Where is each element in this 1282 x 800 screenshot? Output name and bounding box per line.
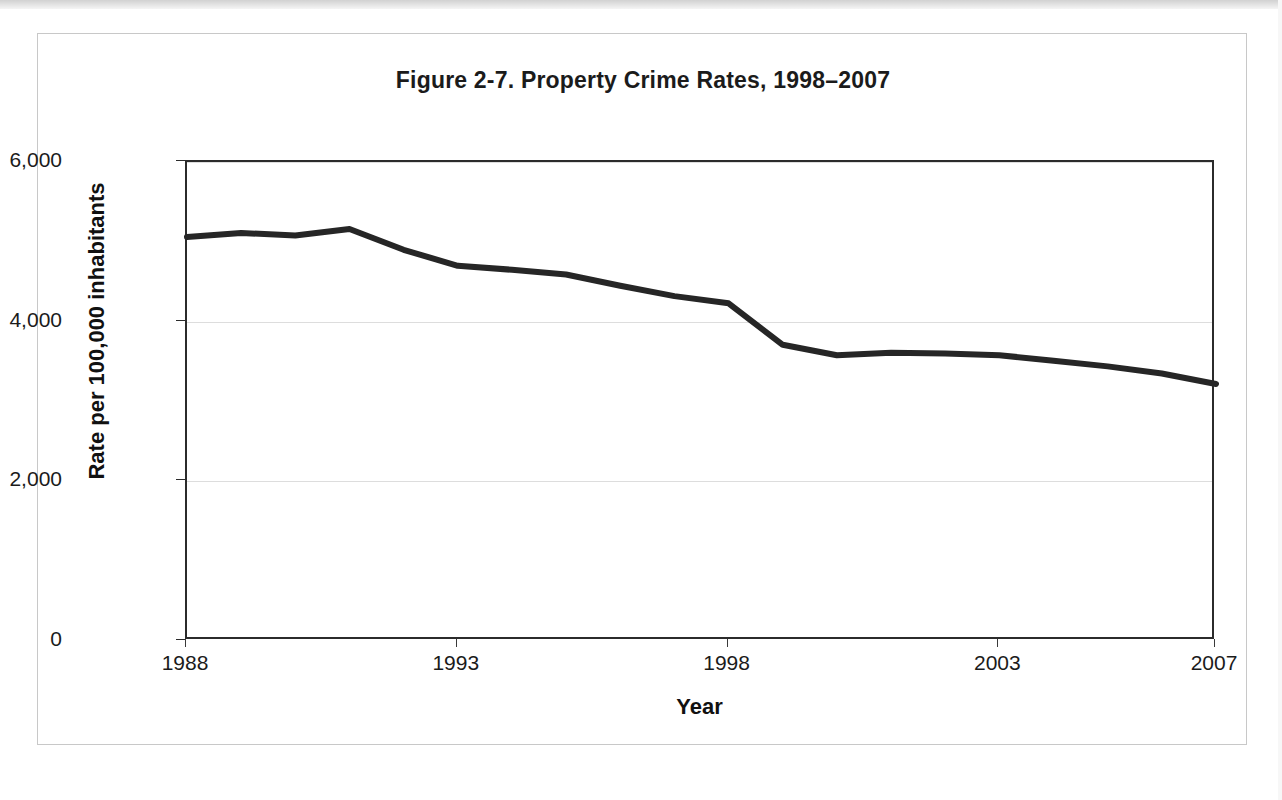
x-tick-label: 1993	[396, 651, 516, 675]
figure-container: Figure 2-7. Property Crime Rates, 1998–2…	[37, 33, 1247, 745]
x-tick-label: 2007	[1154, 651, 1274, 675]
y-tick-mark	[176, 479, 185, 480]
y-tick-mark	[176, 320, 185, 321]
x-tick-mark	[185, 639, 186, 647]
x-axis-title: Year	[185, 694, 1214, 720]
property-crime-rate-line	[187, 229, 1216, 384]
figure-title: Figure 2-7. Property Crime Rates, 1998–2…	[38, 67, 1248, 94]
x-tick-label: 1998	[667, 651, 787, 675]
y-tick-mark	[176, 639, 185, 640]
x-tick-label: 2003	[937, 651, 1057, 675]
scan-artifact-right-band	[1278, 0, 1282, 800]
y-tick-label: 0	[0, 627, 62, 651]
y-axis-title: Rate per 100,000 inhabitants	[84, 96, 110, 566]
y-tick-label: 2,000	[0, 467, 62, 491]
y-tick-label: 6,000	[0, 148, 62, 172]
scan-artifact-top-band	[0, 0, 1282, 9]
y-tick-label: 4,000	[0, 308, 62, 332]
plot-area	[185, 160, 1214, 639]
data-series-line	[187, 162, 1216, 641]
y-tick-mark	[176, 160, 185, 161]
x-tick-label: 1988	[125, 651, 245, 675]
